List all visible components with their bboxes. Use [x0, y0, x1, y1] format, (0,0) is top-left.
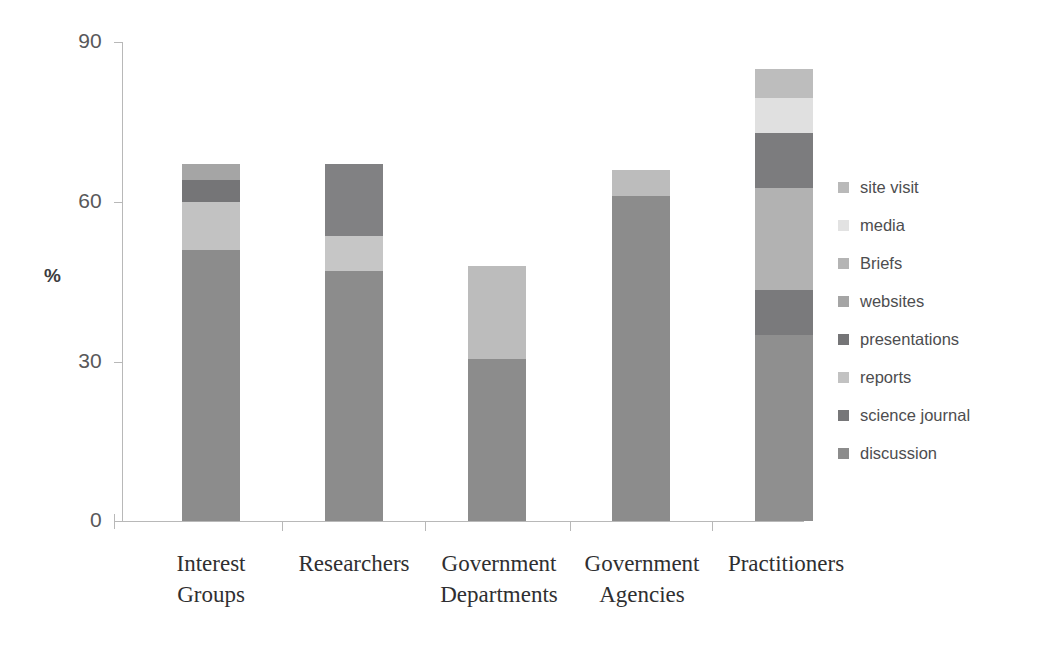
bar-segment-discussion — [182, 250, 240, 521]
chart-legend: site visitmediaBriefswebsitespresentatio… — [838, 168, 1038, 472]
bar-researchers[interactable] — [325, 164, 383, 521]
category-label-interest-groups: Interest Groups — [133, 549, 289, 610]
y-tick-label-0: 0 — [32, 508, 102, 532]
legend-swatch-icon — [838, 220, 849, 231]
bar-segment-reports — [468, 266, 526, 359]
legend-item-reports[interactable]: reports — [838, 358, 1038, 396]
bar-segment-science-journal — [755, 290, 813, 335]
legend-swatch-icon — [838, 410, 849, 421]
legend-swatch-icon — [838, 258, 849, 269]
category-label-government-agencies: Government Agencies — [562, 549, 722, 610]
bar-segment-reports — [612, 170, 670, 197]
bar-segment-discussion — [468, 359, 526, 521]
legend-item-science-journal[interactable]: science journal — [838, 396, 1038, 434]
bar-segment-presentations — [182, 180, 240, 201]
y-tick-30 — [114, 362, 123, 363]
x-tick-3 — [570, 522, 571, 531]
legend-item-Briefs[interactable]: Briefs — [838, 244, 1038, 282]
legend-label: media — [860, 216, 905, 235]
bar-segment-websites — [755, 188, 813, 289]
legend-label: site visit — [860, 178, 919, 197]
bar-segment-science-journal — [325, 164, 383, 236]
bar-interest-groups[interactable] — [182, 164, 240, 521]
legend-item-site-visit[interactable]: site visit — [838, 168, 1038, 206]
y-tick-90 — [114, 42, 123, 43]
x-tick-2 — [425, 522, 426, 531]
y-tick-label-90: 90 — [32, 29, 102, 53]
legend-item-media[interactable]: media — [838, 206, 1038, 244]
bar-segment-media — [755, 98, 813, 133]
bar-government-agencies[interactable] — [612, 170, 670, 521]
legend-swatch-icon — [838, 296, 849, 307]
y-tick-label-30: 30 — [32, 349, 102, 373]
bar-segment-websites — [182, 164, 240, 180]
legend-swatch-icon — [838, 372, 849, 383]
bar-segment-site-visit — [755, 69, 813, 98]
legend-swatch-icon — [838, 334, 849, 345]
legend-label: science journal — [860, 406, 970, 425]
x-tick-4 — [712, 522, 713, 531]
bar-segment-reports — [182, 202, 240, 250]
bar-segment-media — [325, 236, 383, 271]
y-axis-line — [122, 42, 123, 522]
legend-item-presentations[interactable]: presentations — [838, 320, 1038, 358]
category-label-government-departments: Government Departments — [412, 549, 586, 610]
bar-government-departments[interactable] — [468, 266, 526, 521]
category-label-practitioners: Practitioners — [705, 549, 867, 580]
bar-segment-discussion — [325, 271, 383, 521]
legend-swatch-icon — [838, 448, 849, 459]
legend-label: Briefs — [860, 254, 902, 273]
legend-swatch-icon — [838, 182, 849, 193]
stacked-bar-chart: % 90 60 30 0 Interest Groups Researchers… — [0, 0, 1040, 646]
legend-label: websites — [860, 292, 924, 311]
legend-label: presentations — [860, 330, 959, 349]
bar-segment-discussion — [612, 196, 670, 521]
bar-segment-presentations — [755, 133, 813, 189]
y-axis-title: % — [44, 265, 61, 287]
x-axis-line — [114, 521, 804, 522]
legend-label: reports — [860, 368, 911, 387]
legend-item-websites[interactable]: websites — [838, 282, 1038, 320]
x-tick-origin — [114, 514, 115, 529]
y-tick-60 — [114, 202, 123, 203]
y-tick-label-60: 60 — [32, 189, 102, 213]
legend-item-discussion[interactable]: discussion — [838, 434, 1038, 472]
legend-label: discussion — [860, 444, 937, 463]
bar-practitioners[interactable] — [755, 69, 813, 521]
bar-segment-discussion — [755, 335, 813, 521]
x-tick-1 — [282, 522, 283, 531]
